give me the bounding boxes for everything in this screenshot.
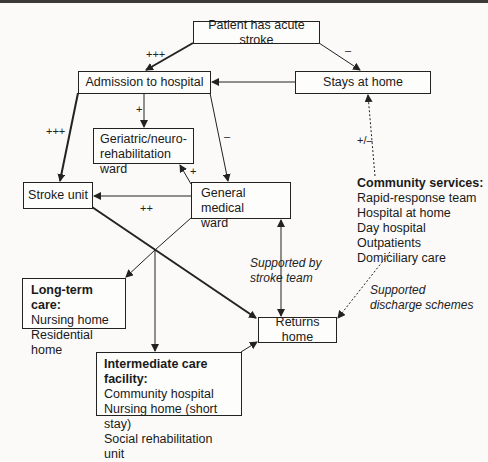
node-label-line: rehabilitation ward xyxy=(100,147,187,177)
edge-label-home-community: +/– xyxy=(357,134,373,146)
node-intermediate-care-facility: Intermediate care facility: Community ho… xyxy=(96,352,242,416)
list-item: Hospital at home xyxy=(357,206,483,221)
edge-label-start-admission: +++ xyxy=(146,48,165,60)
node-label: Admission to hospital xyxy=(85,75,203,90)
edge-label-admission-general: – xyxy=(224,130,230,142)
node-general-medical-ward: General medical ward xyxy=(191,182,291,219)
edge-label-line: discharge schemes xyxy=(370,298,473,313)
list-item: Rapid-response team xyxy=(357,191,483,206)
list-item: Nursing home xyxy=(31,313,117,328)
list-item: Community hospital xyxy=(104,387,234,402)
community-services-title: Community services: xyxy=(357,176,483,191)
edge-label-discharge-schemes: Supported discharge schemes xyxy=(370,283,473,313)
edge-label-admission-geriatric: + xyxy=(136,103,142,115)
list-item: Domiciliary care xyxy=(357,251,483,266)
community-services-list: Community services: Rapid-response team … xyxy=(357,176,483,266)
list-item: Day hospital xyxy=(357,221,483,236)
node-returns-home: Returns home xyxy=(258,317,337,343)
node-label: Returns home xyxy=(259,315,336,345)
node-stroke-unit: Stroke unit xyxy=(23,182,93,209)
edge-label-start-home: – xyxy=(345,44,351,56)
node-long-term-care: Long-term care: Nursing home Residential… xyxy=(22,278,126,329)
edge-label-general-geriatric: + xyxy=(190,165,196,177)
list-item: Social rehabilitation unit xyxy=(104,432,234,462)
edge-label-line: stroke team xyxy=(250,271,321,286)
node-label: Stays at home xyxy=(323,75,403,90)
node-label-line: Geriatric/neuro- xyxy=(100,132,187,147)
long-term-care-title: Long-term care: xyxy=(31,283,117,313)
node-label-line: General medical xyxy=(201,186,281,216)
intermediate-care-title: Intermediate care facility: xyxy=(104,357,234,387)
edge-label-line: Supported by xyxy=(250,256,321,271)
edge-label-general-stroke: ++ xyxy=(140,202,153,214)
node-label: Stroke unit xyxy=(28,188,88,203)
node-label: Patient has acute stroke xyxy=(194,18,319,48)
list-item: Outpatients xyxy=(357,236,483,251)
node-label-line: ward xyxy=(201,216,281,231)
edge-label-admission-stroke: +++ xyxy=(46,125,65,137)
node-stays-at-home: Stays at home xyxy=(295,71,431,94)
node-patient-acute-stroke: Patient has acute stroke xyxy=(193,21,320,44)
edge-label-line: Supported xyxy=(370,283,473,298)
edge-label-stroke-team: Supported by stroke team xyxy=(250,256,321,286)
node-geriatric-rehab-ward: Geriatric/neuro- rehabilitation ward xyxy=(93,128,194,164)
node-admission-to-hospital: Admission to hospital xyxy=(78,71,211,94)
list-item: Nursing home (short stay) xyxy=(104,402,234,432)
